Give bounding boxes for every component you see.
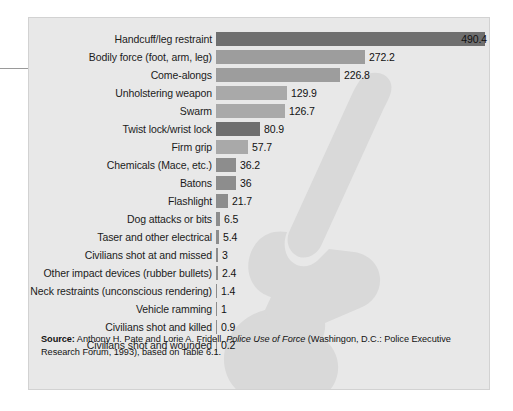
bar-row: Come-alongs 226.8: [29, 66, 490, 84]
leader-line: [0, 68, 30, 69]
bar-row: Taser and other electrical 5.4: [29, 228, 490, 246]
bar-value: 36: [236, 177, 251, 189]
category-label: Chemicals (Mace, etc.): [29, 159, 216, 171]
bar-value: 126.7: [285, 105, 315, 117]
bar-row: Bodily force (foot, arm, leg) 272.2: [29, 48, 490, 66]
category-label: Flashlight: [29, 195, 216, 207]
bar-track: 21.7: [216, 194, 490, 208]
source-authors: Anthony H. Pate and Lorie A. Fridell,: [75, 334, 226, 344]
source-publication-title: Police Use of Force: [226, 334, 305, 344]
bar-row: Chemicals (Mace, etc.) 36.2: [29, 156, 490, 174]
category-label: Bodily force (foot, arm, leg): [29, 51, 216, 63]
source-citation: Source: Anthony H. Pate and Lorie A. Fri…: [41, 333, 477, 359]
category-label: Come-alongs: [29, 69, 216, 81]
bar-track: 5.4: [216, 230, 490, 244]
chart-panel: Handcuff/leg restraint 490.4 Bodily forc…: [28, 17, 490, 390]
bar-row: Other impact devices (rubber bullets) 2.…: [29, 264, 490, 282]
bar-batons: [216, 176, 236, 190]
bar-value: 2.4: [218, 267, 236, 279]
bar-value: 3: [218, 249, 228, 261]
horizontal-bar-chart: Handcuff/leg restraint 490.4 Bodily forc…: [29, 18, 490, 328]
bar-row: Civilians shot at and missed 3: [29, 246, 490, 264]
category-label: Swarm: [29, 105, 216, 117]
bar-track: 126.7: [216, 104, 490, 118]
category-label: Civilians shot and killed: [29, 321, 216, 333]
category-label: Vehicle ramming: [29, 303, 216, 315]
category-label: Handcuff/leg restraint: [29, 33, 216, 45]
bar-value: 1.4: [217, 285, 235, 297]
bar-value: 129.9: [287, 87, 317, 99]
bar-value: 80.9: [260, 123, 284, 135]
category-label: Taser and other electrical: [29, 231, 216, 243]
bar-track: 226.8: [216, 68, 490, 82]
bar-track: 80.9: [216, 122, 490, 136]
bar-track: 2.4: [216, 266, 490, 280]
bar-value: 36.2: [236, 159, 260, 171]
bar-row: Twist lock/wrist lock 80.9: [29, 120, 490, 138]
category-label: Batons: [29, 177, 216, 189]
bar-row: Swarm 126.7: [29, 102, 490, 120]
bar-come-alongs: [216, 68, 340, 82]
bar-bodily-force: [216, 50, 365, 64]
bar-track: 129.9: [216, 86, 490, 100]
bar-value: 1: [217, 303, 227, 315]
bar-value: 5.4: [219, 231, 237, 243]
bar-value: 272.2: [365, 51, 395, 63]
bar-track: 490.4: [216, 32, 490, 46]
bar-row: Unholstering weapon 129.9: [29, 84, 490, 102]
bar-track: 272.2: [216, 50, 490, 64]
category-label: Neck restraints (unconscious rendering): [29, 285, 216, 297]
bar-track: 0.9: [216, 320, 490, 334]
category-label: Civilians shot at and missed: [29, 249, 216, 261]
bar-chemicals: [216, 158, 236, 172]
category-label: Unholstering weapon: [29, 87, 216, 99]
bar-row: Firm grip 57.7: [29, 138, 490, 156]
bar-value: 0.9: [217, 321, 235, 333]
bar-track: 6.5: [216, 212, 490, 226]
bar-row: Batons 36: [29, 174, 490, 192]
bar-row: Flashlight 21.7: [29, 192, 490, 210]
bar-flashlight: [216, 194, 228, 208]
bar-value: 6.5: [220, 213, 238, 225]
bar-row: Dog attacks or bits 6.5: [29, 210, 490, 228]
bar-swarm: [216, 104, 285, 118]
bar-row: Handcuff/leg restraint 490.4: [29, 30, 490, 48]
category-label: Other impact devices (rubber bullets): [29, 267, 216, 279]
bar-value: 57.7: [248, 141, 272, 153]
bar-row: Neck restraints (unconscious rendering) …: [29, 282, 490, 300]
bar-handcuff-leg-restraint: [216, 32, 485, 46]
bar-track: 3: [216, 248, 490, 262]
bar-firm-grip: [216, 140, 248, 154]
bar-value: 490.4: [461, 33, 487, 45]
bar-row: Vehicle ramming 1: [29, 300, 490, 318]
category-label: Firm grip: [29, 141, 216, 153]
bar-value: 226.8: [340, 69, 370, 81]
category-label: Twist lock/wrist lock: [29, 123, 216, 135]
source-label: Source:: [41, 334, 75, 344]
bar-track: 57.7: [216, 140, 490, 154]
bar-unholstering-weapon: [216, 86, 287, 100]
bar-track: 36: [216, 176, 490, 190]
bar-value: 21.7: [228, 195, 252, 207]
bar-track: 1.4: [216, 284, 490, 298]
bar-track: 36.2: [216, 158, 490, 172]
category-label: Dog attacks or bits: [29, 213, 216, 225]
bar-twist-lock-wrist-lock: [216, 122, 260, 136]
bar-track: 1: [216, 302, 490, 316]
